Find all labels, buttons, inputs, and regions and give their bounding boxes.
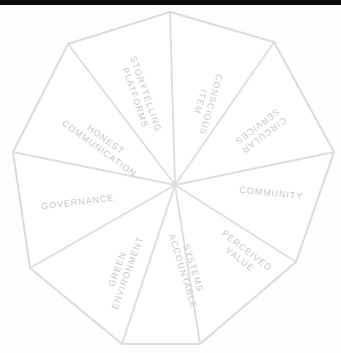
decagon-wheel: CONSCIOUS ITEM CIRCULAR SERVICES COMMUNI… bbox=[0, 0, 341, 353]
top-black-band bbox=[0, 0, 341, 5]
diagram-canvas: CONSCIOUS ITEM CIRCULAR SERVICES COMMUNI… bbox=[0, 0, 341, 353]
decagon-outline bbox=[13, 12, 334, 344]
